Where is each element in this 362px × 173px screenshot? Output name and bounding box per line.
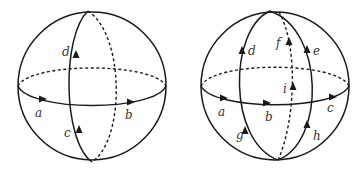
right-label-d: d <box>248 44 256 58</box>
left-label-b: b <box>125 108 133 122</box>
right-equator-back <box>201 67 349 86</box>
left-label-d: d <box>62 45 70 59</box>
left-sphere: a b c d <box>18 11 166 162</box>
left-arrow-c-icon <box>76 125 83 133</box>
right-sphere: a b c d e f g h i <box>201 11 349 160</box>
right-meridian-left <box>239 11 278 160</box>
left-meridian-back <box>88 11 116 162</box>
right-label-g: g <box>236 128 244 142</box>
right-label-e: e <box>313 44 320 58</box>
two-spheres-diagram: a b c d a b c d e f g h i <box>0 0 362 173</box>
left-label-c: c <box>64 126 71 140</box>
right-label-i: i <box>283 82 287 96</box>
right-label-b: b <box>265 110 273 124</box>
left-meridian-front <box>69 11 92 162</box>
right-sphere-outline <box>201 12 349 160</box>
left-sphere-outline <box>18 12 166 160</box>
left-arrow-b-icon <box>127 99 135 106</box>
right-arrow-f-icon <box>286 37 293 45</box>
left-arrow-d-icon <box>73 50 80 58</box>
right-label-c: c <box>327 101 334 115</box>
right-label-a: a <box>218 105 225 119</box>
right-label-f: f <box>275 36 283 50</box>
right-arrow-c-icon <box>329 94 337 101</box>
left-label-a: a <box>35 106 42 120</box>
right-arrow-i-icon <box>290 82 297 90</box>
right-label-h: h <box>313 129 321 143</box>
left-equator-front <box>18 86 166 106</box>
left-equator-back <box>18 68 166 86</box>
right-meridian-right <box>270 11 312 160</box>
right-arrow-h-icon <box>304 120 311 128</box>
